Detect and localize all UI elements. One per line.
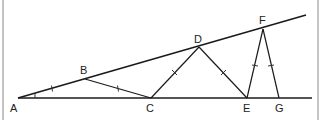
label-a: A	[10, 102, 18, 114]
geometry-diagram: A B C D E F G	[0, 0, 321, 120]
tick-ef	[252, 65, 258, 66]
label-d: D	[194, 33, 202, 45]
label-e: E	[243, 102, 250, 114]
segment-fg	[263, 29, 279, 98]
tick-bc	[118, 86, 119, 92]
tick-fg	[268, 65, 274, 66]
segment-ef	[247, 29, 263, 98]
label-b: B	[80, 64, 87, 76]
label-g: G	[275, 102, 284, 114]
label-f: F	[259, 14, 266, 26]
tick-ab	[52, 86, 53, 92]
label-c: C	[146, 102, 154, 114]
